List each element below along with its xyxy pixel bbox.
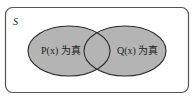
set-q-label: Q(x) 为真 [117,44,158,57]
venn-diagram: S P(x) 为真 Q(x) 为真 [0,0,195,97]
set-p-label: P(x) 为真 [41,44,81,57]
universe-label: S [13,16,18,27]
